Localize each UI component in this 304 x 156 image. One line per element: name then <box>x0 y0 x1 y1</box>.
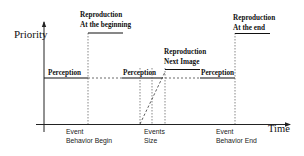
event-size-label-1: Events <box>144 128 165 135</box>
x-axis-label: Time <box>268 123 290 134</box>
y-axis-label: Priority <box>14 28 48 40</box>
perception-label-2: Perception <box>123 69 156 77</box>
reproduction-beginning-label-1: Reproduction <box>80 11 122 19</box>
perception-label-3: Perception <box>201 69 234 77</box>
event-begin-label-2: Behavior Begin <box>66 137 112 145</box>
priority-time-diagram: Priority Time Perception Reproduction At… <box>0 0 304 156</box>
event-end-label-2: Behavior End <box>216 137 257 144</box>
reproduction-end-label-2: At the end <box>233 24 265 32</box>
priority-ramp <box>140 72 165 124</box>
perception-label-1: Perception <box>48 69 81 77</box>
reproduction-beginning-label-2: At the beginning <box>80 21 132 29</box>
reproduction-next-label-2: Next Image <box>164 58 199 66</box>
event-begin-label-1: Event <box>66 128 83 135</box>
event-end-label-1: Event <box>216 128 233 135</box>
reproduction-next-label-1: Reproduction <box>164 48 206 56</box>
reproduction-end-label-1: Reproduction <box>233 14 275 22</box>
event-size-label-2: Size <box>144 137 157 144</box>
